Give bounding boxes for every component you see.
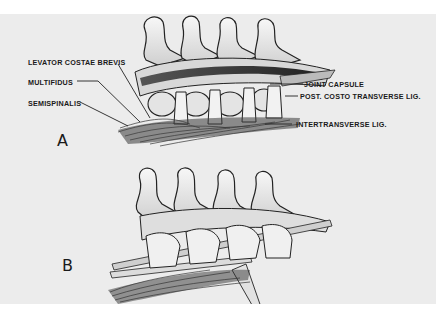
label-levator-costae-brevis: LEVATOR COSTAE BREVIS <box>28 58 126 67</box>
label-semispinalis: SEMISPINALIS <box>28 99 81 108</box>
label-post-costo-transverse-lig: POST. COSTO TRANSVERSE LIG. <box>300 92 421 101</box>
panel-b-drawing <box>108 168 332 304</box>
label-joint-capsule: JOINT CAPSULE <box>304 80 364 89</box>
label-intertransverse-lig: INTERTRANSVERSE LIG. <box>296 120 387 129</box>
anatomical-figure: A B LEVATOR COSTAE BREVIS MULTIFIDUS SEM… <box>0 14 436 304</box>
panel-letter-b: B <box>62 256 73 275</box>
panel-letter-a: A <box>57 131 68 150</box>
label-multifidus: MULTIFIDUS <box>28 78 73 87</box>
